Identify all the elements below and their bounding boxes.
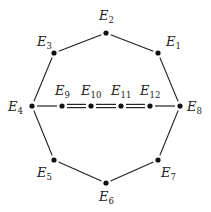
node-e4 (29, 103, 34, 108)
label-e9: E9 (54, 83, 70, 100)
label-e5: E5 (36, 165, 52, 182)
label-e1: E1 (165, 34, 181, 51)
label-e10: E10 (80, 83, 101, 100)
label-e4: E4 (7, 99, 23, 116)
node-e3 (51, 50, 56, 55)
octagon-graph-diagram: E1E2E3E4E5E6E7E8E9E10E11E12 (0, 0, 211, 212)
edge-e5-e6 (59, 162, 102, 181)
node-e7 (155, 157, 160, 162)
edge-e4-e5 (34, 111, 52, 156)
node-e5 (51, 157, 56, 162)
edge-e8-e1 (160, 58, 178, 102)
edge-e3-e4 (34, 58, 52, 102)
label-e3: E3 (36, 34, 52, 51)
label-e7: E7 (160, 165, 176, 182)
label-e2: E2 (98, 8, 114, 25)
node-e8 (177, 103, 182, 108)
node-e9 (59, 103, 64, 108)
node-e6 (103, 180, 108, 185)
label-e8: E8 (186, 99, 202, 116)
node-e10 (88, 103, 93, 108)
label-e12: E12 (139, 83, 160, 100)
edge-e1-e2 (111, 35, 154, 51)
node-e12 (147, 103, 152, 108)
node-e2 (103, 30, 108, 35)
edge-e2-e3 (59, 35, 102, 51)
node-e1 (155, 50, 160, 55)
edge-e6-e7 (111, 162, 154, 181)
label-e6: E6 (98, 189, 114, 206)
node-e11 (118, 103, 123, 108)
edge-e7-e8 (160, 111, 178, 156)
label-e11: E11 (110, 83, 131, 100)
